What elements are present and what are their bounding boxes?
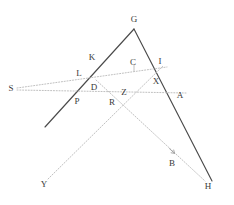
direction-arrow-toward-H (168, 147, 176, 155)
ray-Y-through-R-Z-to-I (48, 66, 163, 179)
point-label-P: P (74, 97, 79, 106)
point-label-D: D (91, 83, 98, 92)
ray-S-through-P-R-to-A (17, 90, 186, 93)
ray-D-through-Z-to-H (96, 80, 205, 181)
solid-lines-group (45, 29, 212, 181)
point-label-B: B (169, 159, 175, 168)
dotted-lines-group (17, 65, 205, 181)
point-label-I: I (159, 57, 162, 66)
point-label-K: K (89, 53, 96, 62)
point-label-L: L (76, 69, 82, 78)
geometry-diagram: G K C I L X S D Z A P R B Y H (0, 0, 234, 205)
point-label-S: S (8, 84, 13, 93)
point-label-R: R (109, 98, 115, 107)
point-label-G: G (131, 15, 138, 24)
geometry-canvas (0, 0, 234, 205)
point-label-X: X (153, 77, 160, 86)
point-label-Y: Y (41, 180, 48, 189)
point-label-A: A (177, 91, 184, 100)
point-label-Z: Z (121, 88, 127, 97)
point-label-H: H (205, 182, 212, 191)
point-label-C: C (130, 58, 136, 67)
